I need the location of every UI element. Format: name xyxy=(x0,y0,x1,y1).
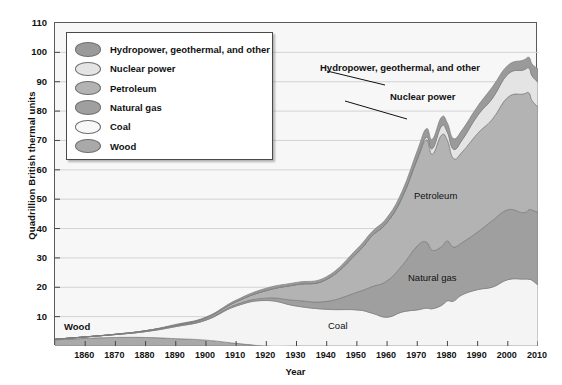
y-tick-30: 30 xyxy=(19,251,47,262)
x-tick-1940: 1940 xyxy=(316,350,336,360)
y-tick-60: 60 xyxy=(19,163,47,174)
y-tick-70: 70 xyxy=(19,134,47,145)
y-tick-110: 110 xyxy=(19,17,47,28)
y-axis-tick-labels: 110100908070605040302010 xyxy=(17,0,47,385)
legend-swatch-icon-1 xyxy=(75,62,101,77)
legend-item-label: Hydropower, geothermal, and other xyxy=(110,44,270,55)
annotation-coal: Coal xyxy=(328,320,348,331)
x-tick-1870: 1870 xyxy=(104,350,124,360)
y-tick-40: 40 xyxy=(19,222,47,233)
annotation-natural-gas: Natural gas xyxy=(408,272,457,283)
legend-item-label: Wood xyxy=(110,141,136,152)
y-axis-ticks xyxy=(55,52,60,316)
legend-item-label: Natural gas xyxy=(110,102,162,113)
y-tick-50: 50 xyxy=(19,193,47,204)
legend-item-3[interactable]: Natural gas xyxy=(75,98,264,117)
x-tick-1880: 1880 xyxy=(135,350,155,360)
annotation-nuclear: Nuclear power xyxy=(390,91,455,102)
x-tick-1860: 1860 xyxy=(74,350,94,360)
y-tick-80: 80 xyxy=(19,105,47,116)
y-tick-90: 90 xyxy=(19,75,47,86)
x-tick-1920: 1920 xyxy=(255,350,275,360)
x-tick-2010: 2010 xyxy=(527,350,547,360)
x-tick-1950: 1950 xyxy=(346,350,366,360)
x-tick-1890: 1890 xyxy=(165,350,185,360)
y-tick-20: 20 xyxy=(19,281,47,292)
x-tick-1990: 1990 xyxy=(467,350,487,360)
x-tick-1960: 1960 xyxy=(376,350,396,360)
annotation-hydropower: Hydropower, geothermal, and other xyxy=(320,62,480,73)
legend-item-label: Coal xyxy=(110,121,131,132)
x-tick-1980: 1980 xyxy=(436,350,456,360)
y-tick-10: 10 xyxy=(19,310,47,321)
legend-item-label: Petroleum xyxy=(110,83,156,94)
x-tick-1900: 1900 xyxy=(195,350,215,360)
legend-item-2[interactable]: Petroleum xyxy=(75,79,264,98)
x-axis-title: Year xyxy=(54,366,537,377)
legend-item-0[interactable]: Hydropower, geothermal, and other xyxy=(75,40,264,59)
y-tick-100: 100 xyxy=(19,46,47,57)
annotation-wood: Wood xyxy=(64,321,90,332)
x-axis-tick-labels: 1860187018801890190019101920193019401950… xyxy=(0,350,562,366)
x-tick-2000: 2000 xyxy=(497,350,517,360)
legend-swatch-icon-5 xyxy=(75,139,101,154)
legend-item-4[interactable]: Coal xyxy=(75,117,264,136)
energy-consumption-area-chart: Quadrillion British thermal units 110100… xyxy=(0,0,562,385)
legend-item-label: Nuclear power xyxy=(110,63,175,74)
legend-swatch-icon-3 xyxy=(75,100,101,115)
legend-item-5[interactable]: Wood xyxy=(75,136,264,155)
legend-item-1[interactable]: Nuclear power xyxy=(75,59,264,78)
legend: Hydropower, geothermal, and otherNuclear… xyxy=(66,32,273,160)
legend-swatch-icon-2 xyxy=(75,81,101,96)
x-tick-1930: 1930 xyxy=(285,350,305,360)
legend-swatch-icon-0 xyxy=(75,42,101,57)
legend-swatch-icon-4 xyxy=(75,120,101,135)
x-tick-1910: 1910 xyxy=(225,350,245,360)
x-tick-1970: 1970 xyxy=(406,350,426,360)
annotation-petroleum: Petroleum xyxy=(414,190,457,201)
